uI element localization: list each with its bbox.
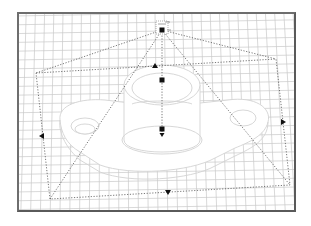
cone-handle-bottom[interactable]: [165, 190, 171, 195]
target-handle-lower[interactable]: [160, 127, 165, 132]
cone-handle-left[interactable]: [39, 133, 44, 139]
scene-canvas[interactable]: [0, 0, 311, 226]
target-handle-upper[interactable]: [160, 78, 165, 83]
spotlight-icon[interactable]: [156, 21, 171, 34]
